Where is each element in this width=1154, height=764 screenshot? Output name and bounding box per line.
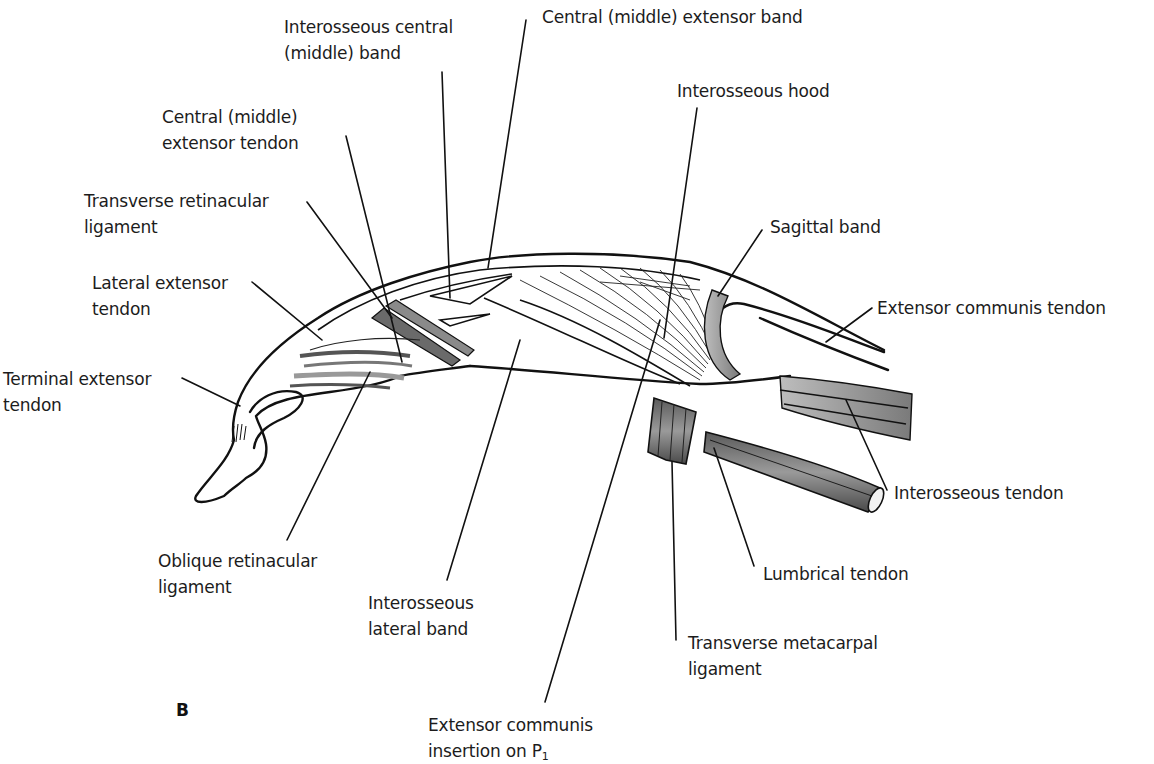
leader-line-central-extensor-band [488, 20, 526, 268]
label-line: Sagittal band [770, 214, 881, 240]
label-line: tendon [3, 392, 151, 418]
leader-line-extensor-communis-tendon [826, 308, 872, 342]
label-central-extensor-band: Central (middle) extensor band [542, 4, 803, 30]
label-line: Central (middle) [162, 104, 299, 130]
label-line: Transverse metacarpal [688, 630, 878, 656]
label-line: Interosseous [368, 590, 474, 616]
lateral-bands-shape [290, 338, 420, 388]
label-line: Interosseous tendon [894, 480, 1064, 506]
label-line: Lumbrical tendon [763, 561, 909, 587]
label-interosseous-lateral-band: Interosseouslateral band [368, 590, 474, 642]
label-line: ligament [158, 574, 317, 600]
lumbrical-tendon-shape [704, 432, 887, 514]
label-interosseous-central-band: Interosseous central(middle) band [284, 14, 453, 66]
leader-line-terminal-extensor-tendon [182, 378, 240, 406]
label-lumbrical-tendon: Lumbrical tendon [763, 561, 909, 587]
label-line: Extensor communis tendon [877, 295, 1106, 321]
hood-fibers [520, 268, 716, 380]
label-sagittal-band: Sagittal band [770, 214, 881, 240]
label-oblique-retinacular-ligament: Oblique retinacularligament [158, 548, 317, 600]
label-transverse-metacarpal-ligament: Transverse metacarpalligament [688, 630, 878, 682]
label-line: Interosseous hood [677, 78, 830, 104]
label-extensor-communis-insertion: Extensor communisinsertion on P1 [428, 712, 593, 764]
leader-line-transverse-metacarpal-ligament [672, 462, 676, 640]
label-line: Oblique retinacular [158, 548, 317, 574]
label-central-extensor-tendon: Central (middle)extensor tendon [162, 104, 299, 156]
leader-line-interosseous-lateral-band [447, 340, 520, 580]
leader-line-interosseous-central-band [442, 72, 450, 298]
interosseous-tendon-shape [780, 376, 912, 440]
label-line: (middle) band [284, 40, 453, 66]
label-line: extensor tendon [162, 130, 299, 156]
label-line: insertion on P1 [428, 738, 593, 764]
leader-line-central-extensor-tendon [346, 136, 402, 362]
label-line: lateral band [368, 616, 474, 642]
label-interosseous-tendon: Interosseous tendon [894, 480, 1064, 506]
label-line: Extensor communis [428, 712, 593, 738]
label-transverse-retinacular-ligament: Transverse retinacularligament [84, 188, 269, 240]
label-line: Interosseous central [284, 14, 453, 40]
label-line: Transverse retinacular [84, 188, 269, 214]
label-line: Central (middle) extensor band [542, 4, 803, 30]
label-line: Terminal extensor [3, 366, 151, 392]
label-subscript: 1 [542, 750, 549, 763]
leader-line-lateral-extensor-tendon [252, 282, 322, 340]
label-line: Lateral extensor [92, 270, 228, 296]
transverse-retinacular-ligament-shape [372, 300, 474, 366]
label-lateral-extensor-tendon: Lateral extensortendon [92, 270, 228, 322]
panel-letter: B [176, 700, 189, 720]
label-line: ligament [84, 214, 269, 240]
label-terminal-extensor-tendon: Terminal extensortendon [3, 366, 151, 418]
label-line: tendon [92, 296, 228, 322]
label-interosseous-hood: Interosseous hood [677, 78, 830, 104]
label-line: ligament [688, 656, 878, 682]
label-extensor-communis-tendon: Extensor communis tendon [877, 295, 1106, 321]
leader-line-interosseous-hood [664, 108, 697, 338]
